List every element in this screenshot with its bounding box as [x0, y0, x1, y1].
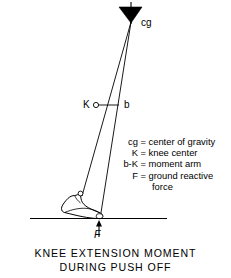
legend-row: b-K = moment arm [112, 158, 231, 169]
knee-label: K [83, 99, 90, 110]
cg-label: cg [141, 17, 152, 28]
force-label: F [94, 228, 100, 240]
caption-line-2: DURING PUSH OFF [0, 260, 231, 274]
legend-symbol: F [112, 170, 138, 181]
legend-equals: = [138, 136, 148, 147]
legend-definition: knee center [148, 147, 231, 158]
legend-equals: = [138, 158, 148, 169]
figure-caption: KNEE EXTENSION MOMENT DURING PUSH OFF [0, 246, 231, 274]
legend-equals: = [138, 147, 148, 158]
legend-definition: moment arm [148, 158, 231, 169]
legend-definition: center of gravity [148, 136, 231, 147]
knee-center-marker [93, 102, 98, 107]
cg-triangle-marker [119, 7, 142, 23]
force-arrow-head [96, 220, 102, 227]
legend-definition: ground reactive [148, 170, 231, 181]
caption-line-1: KNEE EXTENSION MOMENT [0, 246, 231, 260]
legend-row: cg = center of gravity [112, 136, 231, 147]
legend-symbol: K [112, 147, 138, 158]
legend-row: K = knee center [112, 147, 231, 158]
legend-symbol: cg [112, 136, 138, 147]
legend-row: F = ground reactive [112, 170, 231, 181]
legend-equals: = [138, 170, 148, 181]
ankle-joint-marker [78, 191, 83, 196]
moment-point-label: b [124, 99, 130, 110]
legend-symbol: b-K [112, 158, 138, 169]
legend: cg = center of gravity K = knee center b… [112, 136, 231, 192]
legend-definition-continuation: force [152, 181, 231, 192]
